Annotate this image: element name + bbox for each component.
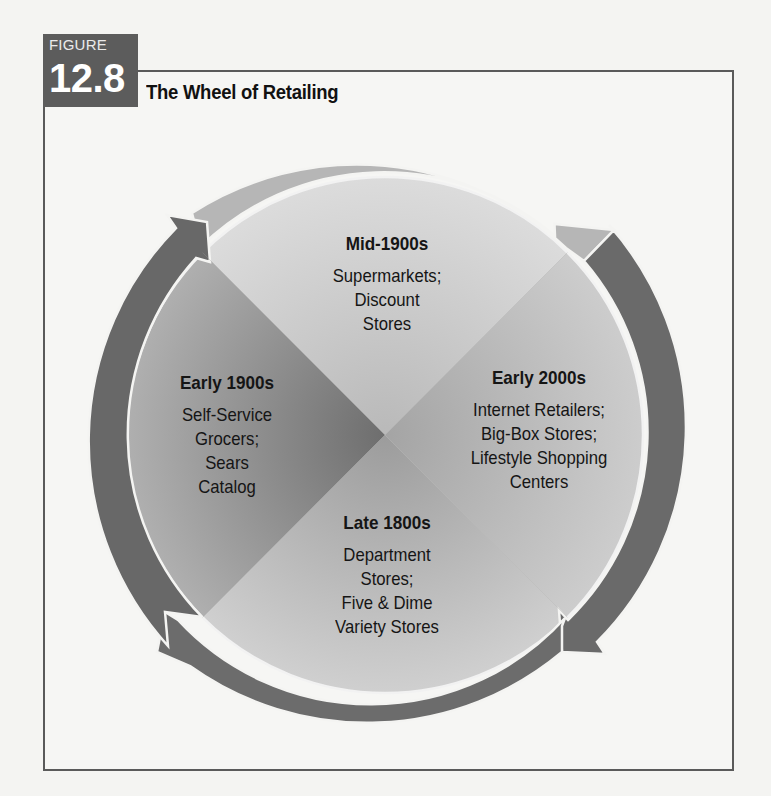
era-line: Discount — [333, 288, 442, 312]
era-title: Early 2000s — [469, 366, 609, 390]
era-line: Big-Box Stores; — [471, 422, 608, 446]
figure-number: 12.8 — [49, 56, 138, 100]
era-line: Department — [335, 543, 439, 567]
era-line: Stores — [333, 312, 442, 336]
era-title: Late 1800s — [334, 511, 440, 535]
era-line: Catalog — [181, 475, 273, 499]
quadrant-label-left: Early 1900s Self-Service Grocers; Sears … — [175, 371, 280, 499]
figure-label: FIGURE — [49, 37, 138, 53]
quadrant-label-right: Early 2000s Internet Retailers; Big-Box … — [461, 366, 616, 494]
era-line: Grocers; — [181, 427, 273, 451]
era-line: Centers — [471, 470, 608, 494]
figure-badge: FIGURE 12.8 — [43, 34, 138, 107]
era-line: Self-Service — [181, 403, 273, 427]
era-title: Early 1900s — [180, 371, 274, 395]
era-line: Supermarkets; — [333, 264, 442, 288]
wheel-of-retailing-diagram — [0, 0, 771, 796]
era-line: Variety Stores — [335, 615, 439, 639]
figure-title: The Wheel of Retailing — [146, 80, 338, 104]
era-title: Mid-1900s — [331, 232, 442, 256]
era-line: Five & Dime — [335, 591, 439, 615]
quadrant-label-top: Mid-1900s Supermarkets; Discount Stores — [325, 232, 449, 336]
era-line: Internet Retailers; — [471, 398, 608, 422]
era-line: Stores; — [335, 567, 439, 591]
era-line: Sears — [181, 451, 273, 475]
era-line: Lifestyle Shopping — [471, 446, 608, 470]
quadrant-label-bottom: Late 1800s Department Stores; Five & Dim… — [328, 511, 446, 639]
